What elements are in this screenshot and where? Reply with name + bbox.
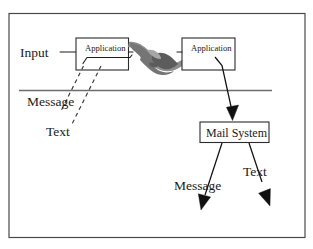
diagram-svg: Input Application Application Message Te…	[0, 0, 313, 249]
application-left-label: Application	[85, 43, 126, 53]
message-upper-label: Message	[27, 94, 74, 109]
input-label: Input	[20, 45, 49, 60]
text-upper-label: Text	[46, 124, 70, 139]
diagram-canvas: Input Application Application Message Te…	[0, 0, 313, 249]
mail-system-label: Mail System	[206, 126, 268, 140]
message-lower-label: Message	[174, 178, 221, 193]
application-right-label: Application	[191, 43, 232, 53]
text-lower-label: Text	[243, 164, 267, 179]
